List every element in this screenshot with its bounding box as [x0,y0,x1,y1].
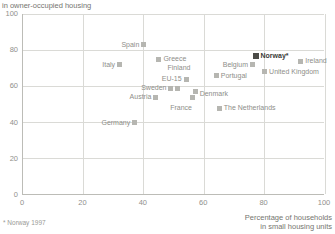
point-label-austria: Austria [130,93,152,101]
point-label-portugal: Portugal [221,72,247,80]
point-label-germany: Germany [101,119,130,127]
point-belgium [250,62,255,67]
gridline-y-80 [23,50,324,51]
point-label-italy: Italy [102,61,115,69]
point-sweden [168,86,173,91]
point-label-ireland: Ireland [305,57,326,65]
point-label-spain: Spain [121,41,139,49]
footnote: * Norway 1997 [3,219,46,226]
point-label-belgium: Belgium [223,61,248,69]
x-axis-title: Percentage of households in small housin… [245,213,332,231]
y-tick-100: 100 [0,10,18,18]
point-norway [253,53,259,59]
point-spain [141,42,146,47]
point-label-greece: Greece [163,55,186,63]
gridline-x-20 [83,14,84,194]
point-greece [156,57,161,62]
gridline-y-20 [23,158,324,159]
point-label-norway: Norway* [261,52,289,60]
y-tick-80: 80 [0,46,18,54]
point-united-kingdom [262,69,267,74]
gridline-y-60 [23,86,324,87]
x-tick-60: 60 [199,199,207,207]
gridline-y-100 [23,14,324,15]
x-axis-title-line2: in small housing units [245,222,332,231]
point-france [190,95,195,100]
point-label-france: France [170,104,192,112]
x-tick-0: 0 [20,199,24,207]
x-tick-100: 100 [318,199,331,207]
point-label-eu-15: EU-15 [162,75,182,83]
point-italy [117,62,122,67]
point-label-the-netherlands: The Netherlands [224,104,276,112]
gridline-x-40 [143,14,144,194]
y-tick-20: 20 [0,155,18,163]
point-ireland [298,59,303,64]
gridline-x-60 [204,14,205,194]
point-label-sweden: Sweden [141,84,166,92]
point-portugal [214,73,219,78]
x-tick-80: 80 [259,199,267,207]
x-tick-40: 40 [139,199,147,207]
point-label-united-kingdom: United Kingdom [269,68,319,76]
point-eu-15 [184,77,189,82]
point-austria [153,95,158,100]
scatter-chart: in owner-occupied housing SpainItalyGree… [0,0,335,234]
point-label-denmark: Denmark [200,90,228,98]
y-tick-60: 60 [0,82,18,90]
x-tick-20: 20 [78,199,86,207]
point-finland [175,86,180,91]
point-the-netherlands [217,106,222,111]
y-tick-40: 40 [0,119,18,127]
plot-area: SpainItalyGreeceFinlandEU-15SwedenAustri… [22,14,324,195]
point-label-finland: Finland [168,64,191,72]
y-tick-0: 0 [0,191,18,199]
x-axis-title-line1: Percentage of households [245,213,332,222]
point-denmark [193,89,198,94]
point-germany [132,120,137,125]
gridline-x-100 [325,14,326,194]
gridline-y-40 [23,122,324,123]
